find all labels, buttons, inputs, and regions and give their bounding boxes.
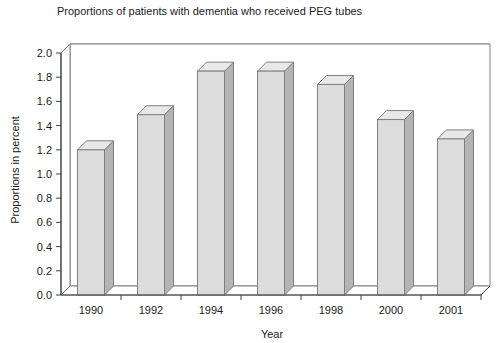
y-axis-label: Proportions in percent	[9, 116, 21, 224]
bar-column	[438, 130, 474, 295]
x-tick-label: 1992	[139, 304, 163, 316]
y-tick-label: 0.4	[37, 241, 52, 253]
bar-column	[378, 111, 414, 295]
x-axis-label: Year	[261, 328, 284, 340]
chart-title: Proportions of patients with dementia wh…	[57, 5, 363, 17]
y-tick-label: 0.6	[37, 216, 52, 228]
chart-container: Proportions of patients with dementia wh…	[0, 0, 504, 343]
x-tick-label: 1998	[319, 304, 343, 316]
x-tick-label: 1996	[259, 304, 283, 316]
bar-column	[258, 62, 294, 295]
x-tick-label: 2001	[439, 304, 463, 316]
x-tick-label: 2000	[379, 304, 403, 316]
y-tick-label: 1.4	[37, 120, 52, 132]
y-tick-label: 1.8	[37, 71, 52, 83]
bar-column	[78, 141, 114, 295]
x-tick-label: 1990	[79, 304, 103, 316]
bar-column	[198, 62, 234, 295]
x-tick-label: 1994	[199, 304, 223, 316]
y-tick-label: 2.0	[37, 47, 52, 59]
bar-chart: Proportions of patients with dementia wh…	[0, 0, 504, 343]
y-tick-label: 1.2	[37, 144, 52, 156]
y-tick-label: 0.2	[37, 265, 52, 277]
y-tick-label: 0.8	[37, 192, 52, 204]
bar-column	[138, 106, 174, 295]
y-tick-label: 1.0	[37, 168, 52, 180]
y-tick-label: 0.0	[37, 289, 52, 301]
bar-column	[318, 75, 354, 295]
y-tick-label: 1.6	[37, 95, 52, 107]
